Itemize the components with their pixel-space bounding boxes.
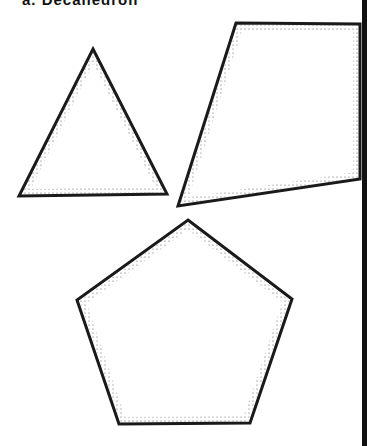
pentagon-shape bbox=[77, 220, 292, 424]
shapes-diagram bbox=[0, 0, 367, 446]
quadrilateral-shape bbox=[178, 23, 360, 206]
page-edge-bar bbox=[362, 0, 367, 446]
triangle-shape bbox=[19, 49, 167, 196]
